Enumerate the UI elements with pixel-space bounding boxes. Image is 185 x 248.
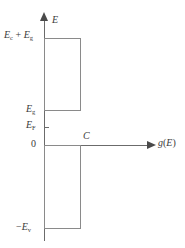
dos-axis-label: g(E) [158,138,176,148]
label-eg-subscript-top: g [30,34,33,41]
label-ec-subscript: c [10,34,13,41]
label-ev-subscript: v [28,226,31,233]
label-zero: 0 [31,139,36,149]
dos-axis-label-paren-close: ) [172,137,175,148]
energy-axis-label-text: E [52,14,58,25]
conduction-band-rectangle [44,38,81,111]
label-ev-base: E [22,221,28,232]
valence-band-rectangle [44,145,81,229]
energy-axis-label: E [52,15,58,25]
fermi-level-tick [44,127,49,128]
label-eg: Eg [26,104,35,114]
label-minus-ev: −Ev [16,222,31,232]
label-plus-operator: + [13,29,24,40]
label-eg-base-top: E [24,29,30,40]
label-ec-plus-eg: Ec + Eg [4,30,33,40]
label-c-width: C [83,131,90,141]
arrow-up-icon [40,12,48,21]
label-ef-subscript: F [32,124,36,131]
label-ef: EF [26,120,36,130]
density-of-states-figure: E g(E) Ec + Eg Eg EF 0 −Ev C [0,0,185,248]
label-eg-subscript: g [32,108,35,115]
arrow-right-icon [147,141,156,149]
